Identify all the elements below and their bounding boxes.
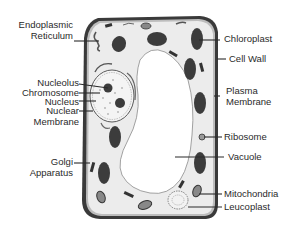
label-nuclear-membrane: Nuclear Membrane: [34, 106, 79, 127]
label-line: Reticulum: [19, 31, 73, 42]
label-line: Membrane: [34, 117, 79, 128]
label-plasma-membrane: Plasma Membrane: [226, 86, 271, 107]
label-endoplasmic-reticulum: Endoplasmic Reticulum: [19, 20, 73, 41]
label-leucoplast: Leucoplast: [224, 202, 270, 213]
label-line: Apparatus: [30, 168, 73, 179]
label-line: Golgi: [30, 157, 73, 168]
label-ribosome: Ribosome: [224, 132, 267, 143]
label-line: Cell Wall: [229, 54, 266, 65]
label-line: Membrane: [226, 97, 271, 108]
plant-cell-diagram: Endoplasmic Reticulum Nucleolus Chromoso…: [0, 0, 295, 234]
label-golgi-apparatus: Golgi Apparatus: [30, 157, 73, 178]
leucoplast: [168, 191, 188, 209]
nucleus: [90, 70, 134, 122]
label-line: Plasma: [226, 86, 271, 97]
label-chloroplast: Chloroplast: [224, 34, 272, 45]
label-line: Ribosome: [224, 132, 267, 143]
label-cell-wall: Cell Wall: [229, 54, 266, 65]
label-line: Leucoplast: [224, 202, 270, 213]
label-vacuole: Vacuole: [228, 152, 262, 163]
label-line: Endoplasmic: [19, 20, 73, 31]
label-line: Vacuole: [228, 152, 262, 163]
label-line: Nuclear: [34, 106, 79, 117]
label-line: Mitochondria: [224, 189, 278, 200]
label-line: Chloroplast: [224, 34, 272, 45]
label-mitochondria: Mitochondria: [224, 189, 278, 200]
